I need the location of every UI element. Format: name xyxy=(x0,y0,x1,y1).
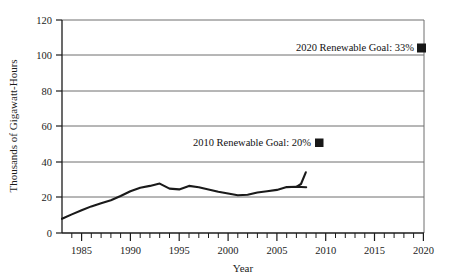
y-tick-label-120: 120 xyxy=(36,15,52,26)
y-tick-label-40: 40 xyxy=(42,157,53,168)
x-tick-label-2010: 2010 xyxy=(315,245,336,256)
chart-page: 120 100 80 60 40 20 0 xyxy=(0,0,449,280)
annotation-goal-2010-marker-square-icon xyxy=(315,139,324,148)
y-tick-label-0: 0 xyxy=(47,228,52,239)
x-axis-title: Year xyxy=(233,262,254,274)
y-tick-label-60: 60 xyxy=(42,121,53,132)
y-axis-title: Thousands of Gigawatt-Hours xyxy=(7,59,19,192)
y-tick-label-20: 20 xyxy=(42,192,53,203)
y-tick-label-100: 100 xyxy=(36,50,52,61)
annotation-goal-2020-marker-square-icon xyxy=(417,44,426,53)
x-tick-label-2015: 2015 xyxy=(364,245,385,256)
annotation-goal-2020-label: 2020 Renewable Goal: 33% xyxy=(296,42,414,53)
y-tick-label-80: 80 xyxy=(42,86,53,97)
renewable-generation-line-chart: 120 100 80 60 40 20 0 xyxy=(0,0,449,280)
annotation-goal-2010: 2010 Renewable Goal: 20% xyxy=(193,137,324,148)
x-tick-label-2000: 2000 xyxy=(218,245,239,256)
annotation-goal-2010-label: 2010 Renewable Goal: 20% xyxy=(193,137,311,148)
x-tick-label-1990: 1990 xyxy=(120,245,141,256)
x-tick-label-2020: 2020 xyxy=(413,245,434,256)
x-tick-label-1995: 1995 xyxy=(169,245,190,256)
x-tick-label-1985: 1985 xyxy=(71,245,92,256)
x-tick-label-2005: 2005 xyxy=(266,245,287,256)
annotation-goal-2020: 2020 Renewable Goal: 33% xyxy=(296,42,426,53)
